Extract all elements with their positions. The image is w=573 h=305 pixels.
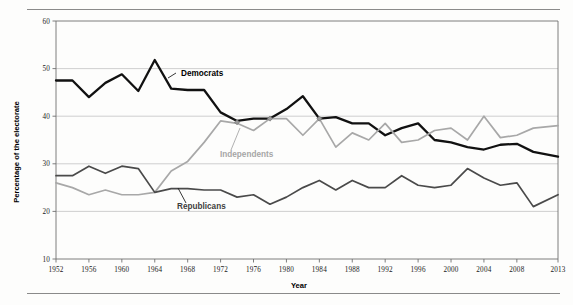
x-tick-label-1960: 1960 — [114, 266, 129, 274]
y-axis-title: Percentage of the electorate — [12, 101, 21, 203]
y-tick-label-50: 50 — [42, 65, 50, 73]
x-tick-label-1996: 1996 — [411, 266, 426, 274]
leader-line-democrats — [168, 73, 176, 78]
party-identification-line-chart: 102030405060 195219561960196419681972197… — [0, 0, 573, 305]
series-line-democrats — [56, 60, 558, 157]
x-axis-title: Year — [291, 281, 307, 290]
x-tick-label-group: 1952195619601964196819721976198019841988… — [48, 266, 565, 274]
x-tick-label-1984: 1984 — [312, 266, 327, 274]
chart-figure: 102030405060 195219561960196419681972197… — [0, 0, 573, 305]
y-tick-label-60: 60 — [42, 18, 50, 26]
x-tick-label-1988: 1988 — [345, 266, 360, 274]
series-line-independents — [56, 116, 558, 195]
x-tick-label-1964: 1964 — [147, 266, 162, 274]
series-label-republicans: Republicans — [177, 202, 226, 211]
x-tick-label-1976: 1976 — [246, 266, 261, 274]
y-tick-mark-group — [53, 21, 57, 259]
leader-line-republicans — [178, 188, 186, 203]
y-tick-label-40: 40 — [42, 113, 50, 121]
series-line-republicans — [56, 166, 558, 206]
x-tick-label-1952: 1952 — [48, 266, 63, 274]
series-line-group — [56, 60, 558, 207]
y-tick-label-10: 10 — [42, 256, 50, 264]
gridline-group — [56, 21, 558, 211]
leader-line-independents — [231, 128, 240, 150]
x-tick-label-2004: 2004 — [476, 266, 491, 274]
x-tick-label-1968: 1968 — [180, 266, 195, 274]
x-tick-mark-group — [56, 259, 558, 263]
y-tick-label-20: 20 — [42, 208, 50, 216]
y-tick-label-group: 102030405060 — [42, 18, 50, 264]
x-tick-label-1980: 1980 — [279, 266, 294, 274]
annotation-leader-line-group — [168, 73, 240, 203]
x-tick-label-2008: 2008 — [509, 266, 524, 274]
x-tick-label-2013: 2013 — [550, 266, 565, 274]
x-tick-label-1992: 1992 — [378, 266, 393, 274]
series-label-independents: Independents — [220, 150, 274, 159]
plot-frame — [56, 21, 558, 259]
x-tick-label-2000: 2000 — [443, 266, 458, 274]
series-label-democrats: Democrats — [181, 69, 224, 78]
x-tick-label-1972: 1972 — [213, 266, 228, 274]
y-tick-label-30: 30 — [42, 160, 50, 168]
x-tick-label-1956: 1956 — [81, 266, 96, 274]
